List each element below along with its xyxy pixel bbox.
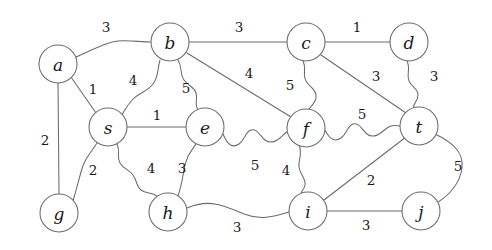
edge-weight-label: 3 (178, 160, 187, 176)
edge-weight-label: 2 (367, 172, 376, 188)
graph-edge (325, 124, 400, 140)
graph-node-i: i (289, 192, 327, 230)
edge-weight-label: 5 (286, 77, 295, 93)
graph-node-s: s (89, 108, 127, 146)
graph-edge (58, 83, 59, 194)
edge-weight-label: 4 (282, 162, 291, 178)
edge-weight-label: 4 (147, 160, 156, 176)
node-label: s (104, 118, 113, 138)
edge-weight-label: 3 (102, 19, 111, 35)
edge-weight-label: 5 (454, 158, 463, 174)
graph-node-j: j (402, 192, 440, 230)
graph-edge (187, 203, 289, 217)
graph-node-e: e (186, 108, 224, 146)
graph-node-g: g (40, 194, 78, 232)
graph-node-c: c (287, 23, 325, 61)
edge-weight-label: 5 (182, 80, 191, 96)
graph-edge (324, 137, 406, 200)
node-label: g (54, 204, 65, 224)
node-label: e (200, 118, 210, 138)
node-label: c (301, 33, 311, 53)
edge-weight-label: 4 (129, 72, 138, 88)
edge-weight-label: 2 (41, 132, 50, 148)
graph-node-b: b (151, 23, 189, 61)
graph-node-d: d (390, 23, 428, 61)
edge-weight-label: 3 (362, 217, 371, 233)
edge-weight-label: 1 (89, 81, 98, 97)
edge-weight-label: 3 (430, 68, 439, 84)
graph-node-a: a (39, 45, 77, 83)
node-label: t (416, 117, 423, 137)
edge-weight-label: 1 (153, 107, 162, 123)
graph-edge (321, 55, 406, 113)
graph-node-h: h (149, 193, 187, 231)
edge-weight-label: 3 (235, 19, 244, 35)
edge-weight-label: 5 (358, 106, 367, 122)
graph-edge (187, 53, 291, 117)
edge-weight-label: 2 (89, 162, 98, 178)
edge-weight-label: 5 (251, 157, 260, 173)
node-label: b (165, 33, 176, 53)
graph-node-f: f (287, 109, 325, 147)
edge-weight-label: 4 (245, 65, 254, 81)
node-label: d (404, 33, 415, 53)
nodes-layer: abcdseftghij (39, 23, 440, 232)
graph-node-t: t (400, 107, 438, 145)
graph-figure: abcdseftghij 3123454153312453453235 (0, 0, 492, 250)
edge-weight-label: 3 (233, 219, 242, 235)
node-label: h (163, 203, 174, 223)
graph-canvas: abcdseftghij 3123454153312453453235 (0, 0, 492, 250)
graph-edge (76, 41, 151, 57)
node-label: a (53, 55, 63, 75)
edge-weight-label: 3 (372, 68, 381, 84)
graph-edge (407, 61, 418, 108)
graph-edge (223, 130, 292, 146)
edge-weight-label: 1 (353, 19, 362, 35)
graph-edge (299, 145, 305, 197)
node-label: i (305, 202, 310, 222)
graph-edge (303, 61, 316, 109)
